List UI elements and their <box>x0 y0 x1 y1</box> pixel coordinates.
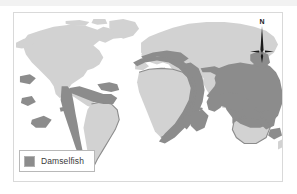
legend-swatch-damselfish <box>24 156 35 167</box>
map-legend: Damselfish <box>19 150 95 172</box>
figure-container: Damselfish N <box>0 0 297 194</box>
legend-label-damselfish: Damselfish <box>41 156 84 166</box>
top-margin-strip <box>0 0 297 6</box>
compass-needle-icon <box>250 26 274 63</box>
compass-rose: N <box>250 17 274 63</box>
island-dot-3 <box>207 100 210 103</box>
map-frame: Damselfish N <box>13 12 283 182</box>
compass-north-label: N <box>250 17 274 26</box>
island-dot-2 <box>198 107 202 110</box>
